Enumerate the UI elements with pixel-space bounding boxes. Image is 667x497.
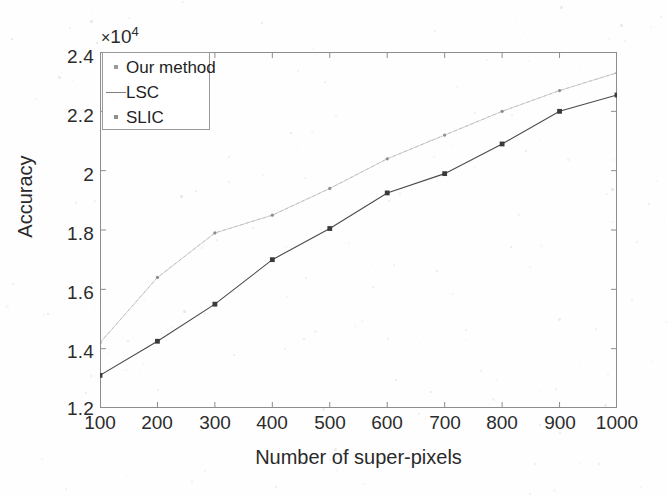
y-tick-2.2: 2.2 bbox=[38, 105, 94, 127]
chart-page: ×104 2.4 2.2 2 1.8 1.6 1.4 1.2 100 200 3… bbox=[0, 0, 667, 497]
data-point-marker bbox=[270, 257, 275, 262]
y-tick-1.6: 1.6 bbox=[38, 282, 94, 304]
y-tick-1.4: 1.4 bbox=[38, 341, 94, 363]
legend-label-our-method: Our method bbox=[126, 59, 216, 76]
legend-item-lsc[interactable]: LSC bbox=[103, 80, 209, 105]
legend-item-slic[interactable]: SLIC bbox=[103, 105, 209, 130]
data-point-marker bbox=[327, 226, 332, 231]
y-tick-2.4: 2.4 bbox=[38, 46, 94, 68]
data-point-marker bbox=[155, 339, 160, 344]
data-point-marker bbox=[100, 373, 102, 378]
legend-item-our-method[interactable]: Our method bbox=[103, 55, 209, 80]
legend-label-lsc: LSC bbox=[126, 84, 159, 101]
exponent-base: 10 bbox=[110, 26, 131, 47]
x-axis-title: Number of super-pixels bbox=[100, 446, 617, 469]
y-axis-exponent-label: ×104 bbox=[101, 24, 139, 48]
data-point-marker bbox=[615, 71, 617, 74]
legend-marker-icon-our-method bbox=[106, 62, 126, 74]
x-tick-1000: 1000 bbox=[582, 412, 652, 434]
data-point-marker bbox=[557, 109, 562, 114]
y-tick-2: 2 bbox=[38, 164, 94, 186]
exponent-power: 4 bbox=[131, 24, 138, 39]
series-slic bbox=[100, 93, 617, 378]
data-point-marker bbox=[385, 191, 390, 196]
data-point-marker bbox=[615, 93, 617, 98]
legend: Our method LSC SLIC bbox=[102, 52, 210, 130]
y-axis-title: Accuracy bbox=[14, 127, 37, 267]
legend-marker-icon-slic bbox=[106, 112, 126, 124]
multiply-sign: × bbox=[101, 29, 110, 46]
data-point-marker bbox=[212, 302, 217, 307]
legend-label-slic: SLIC bbox=[126, 109, 164, 126]
y-tick-1.8: 1.8 bbox=[38, 223, 94, 245]
data-point-marker bbox=[500, 142, 505, 147]
legend-marker-icon-lsc bbox=[106, 87, 126, 99]
data-point-marker bbox=[501, 110, 504, 113]
data-point-marker bbox=[442, 171, 447, 176]
data-point-marker bbox=[386, 157, 389, 160]
